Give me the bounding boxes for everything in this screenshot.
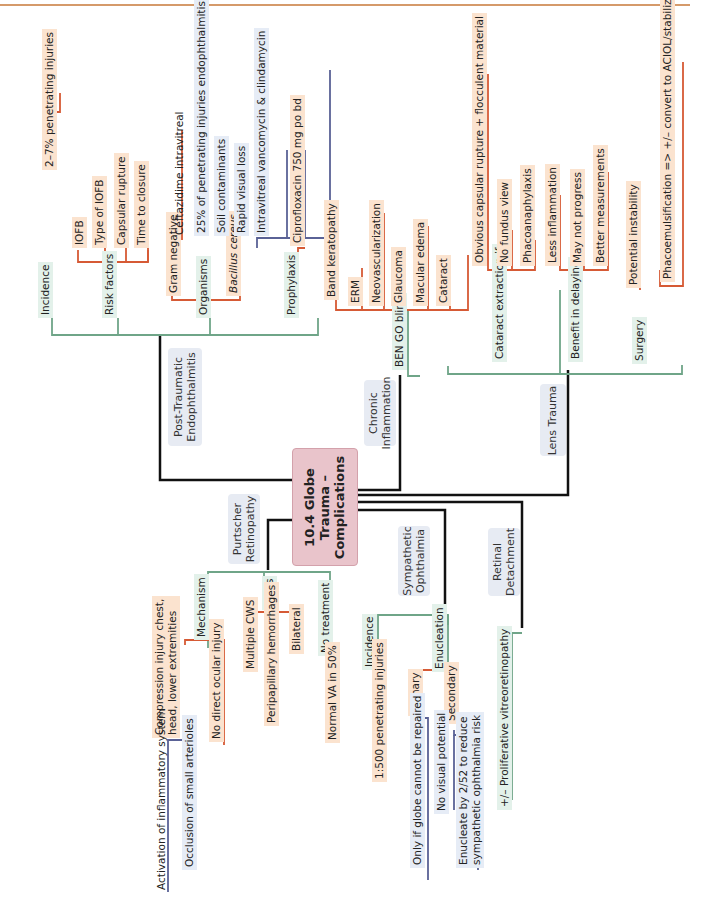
node-organisms: Organisms	[196, 256, 211, 318]
node-macular-edema: Macular edema	[413, 219, 428, 306]
central-topic-line-2: Trauma –	[318, 474, 333, 539]
node-bacillus-25pct: 25% of penetrating injuries endophthalmi…	[194, 0, 209, 236]
node-phacoanaphylaxis: Phacoanaphylaxis	[520, 165, 535, 266]
node-ceftazidime: Ceftazidime intravitreal	[172, 109, 187, 238]
node-risk-type-iofb: Type of IOFB	[92, 176, 107, 248]
category-label-line: Purtscher	[231, 503, 244, 555]
node-ciprofloxacin: Ciprofloxacin 750 mg po bd	[290, 95, 305, 246]
category-label-line: Sympathetic	[401, 526, 414, 595]
category-label-line: Retinal	[491, 543, 504, 581]
node-bilateral: Bilateral	[289, 604, 304, 654]
node-enucleate-by-2-52: Enucleate by 2/52 to reducesympathetic o…	[456, 712, 484, 868]
category-retinal-detachment: RetinalDetachment	[488, 528, 520, 596]
node-incidence-value: 2–7% penetrating injuries	[42, 29, 57, 170]
node-obvious-capsular-rupture: Obvious capsular rupture + flocculent ma…	[472, 13, 487, 266]
node-bacillus-treatment: Intravitreal vancomycin & clindamycin	[254, 28, 269, 236]
category-label-line: Ophthalmia	[414, 529, 427, 593]
central-topic: 10.4 GlobeTrauma –Complications	[292, 448, 358, 566]
node-only-if-globe: Only if globe cannot be repaired	[410, 693, 425, 868]
node-band-keratopathy: Band keratopathy	[324, 200, 339, 300]
enucleate-line-1: Enucleate by 2/52 to reduce	[457, 716, 469, 865]
node-risk-iofb: IOFB	[72, 217, 87, 248]
node-risk-capsular-rupture: Capsular rupture	[114, 153, 129, 248]
node-mechanism: Mechanism	[194, 574, 209, 640]
node-prophylaxis: Prophylaxis	[284, 252, 299, 318]
category-label-line: Chronic	[367, 392, 380, 434]
node-may-not-progress: May not progress	[570, 169, 585, 266]
enucleate-line-2: sympathetic ophthalmia risk	[470, 715, 482, 865]
node-proliferative-vitreoretinopathy: +/– Proliferative vitreoretinopathy	[497, 626, 512, 810]
category-label-line: Endophthalmitis	[185, 352, 198, 442]
node-risk-time-to-closure: Time to closure	[134, 161, 149, 248]
node-no-fundus-view: No fundus view	[497, 179, 512, 266]
category-chronic-inflammation: ChronicInflammation	[364, 380, 396, 446]
node-no-direct-ocular-injury: No direct ocular injury	[209, 619, 224, 742]
node-bacillus-soil: Soil contaminants	[214, 136, 229, 236]
category-purtscher-retinopathy: PurtscherRetinopathy	[228, 494, 260, 564]
central-topic-line-3: Complications	[333, 455, 348, 558]
node-better-measurements: Better measurements	[593, 145, 608, 266]
node-benefit-in-delaying: Benefit in delaying	[568, 257, 583, 362]
node-activation-inflammatory: Activation of inflammatory system	[154, 706, 169, 893]
category-label: Lens Trauma	[547, 385, 560, 455]
category-label-line: Post-Traumatic	[172, 357, 185, 437]
node-phacoemulsification: Phacoemulsification => +/– convert to AC…	[660, 0, 675, 282]
node-surgery: Surgery	[632, 317, 647, 364]
node-neovascularization: Neovascularization	[369, 200, 384, 306]
node-potential-instability: Potential instability	[626, 181, 641, 288]
node-occlusion-arterioles: Occlusion of small arterioles	[182, 715, 197, 870]
node-normal-va-50: Normal VA in 50%	[325, 642, 340, 743]
node-multiple-cws: Multiple CWS	[243, 597, 258, 672]
node-bacillus-rapid-loss: Rapid visual loss	[234, 143, 249, 236]
category-label-line: Inflammation	[380, 376, 393, 449]
node-1-500-penetrating: 1:500 penetrating injuries	[372, 639, 387, 782]
node-less-inflammation: Less inflammation	[545, 164, 560, 266]
category-label-line: Detachment	[504, 528, 517, 596]
node-peripapillary-hemorrhages: Peripapillary hemorrhages	[264, 582, 279, 726]
category-sympathetic-ophthalmia: SympatheticOphthalmia	[398, 526, 430, 596]
central-topic-line-1: 10.4 Globe	[303, 468, 318, 547]
node-glaucoma: Glaucoma	[391, 247, 406, 306]
node-erm: ERM	[348, 277, 363, 306]
category-lens-trauma: Lens Trauma	[540, 384, 566, 456]
node-risk-factors: Risk factors	[102, 251, 117, 318]
category-label-line: Retinopathy	[244, 496, 257, 563]
node-no-visual-potential: No visual potential	[434, 710, 449, 814]
node-cataract: Cataract	[436, 255, 451, 306]
node-incidence: Incidence	[38, 262, 53, 318]
category-post-traumatic-endophthalmitis: Post-TraumaticEndophthalmitis	[168, 348, 202, 446]
